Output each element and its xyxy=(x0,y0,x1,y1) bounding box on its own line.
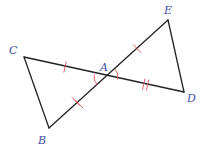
double-tick-mark-ad xyxy=(143,79,149,91)
point-label-a: A xyxy=(99,61,108,74)
angle-arc-cab xyxy=(94,74,97,85)
segment-cb xyxy=(24,57,49,128)
point-label-c: C xyxy=(9,44,18,57)
segment-be xyxy=(49,20,168,128)
point-label-d: D xyxy=(186,92,196,105)
point-label-e: E xyxy=(163,4,172,17)
segment-ed xyxy=(168,20,184,92)
tick-mark-ca xyxy=(64,62,66,73)
angle-arc-ead xyxy=(115,69,118,80)
point-label-b: B xyxy=(37,134,46,147)
geometry-diagram: C A E D B xyxy=(0,0,206,149)
